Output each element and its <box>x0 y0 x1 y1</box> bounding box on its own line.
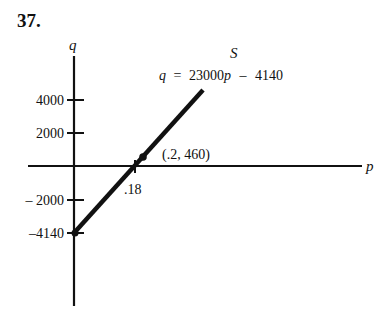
svg-text:–4140: –4140 <box>28 226 64 241</box>
svg-text:4000: 4000 <box>36 93 64 108</box>
intercept-point <box>72 230 79 237</box>
p-axis-label: p <box>365 158 374 174</box>
q-axis-label: q <box>69 37 77 53</box>
curve-label: S <box>230 45 238 61</box>
svg-text:– 2000: – 2000 <box>25 193 65 208</box>
point-02-460 <box>139 153 147 161</box>
y-tick-2000: 2000 <box>36 126 84 141</box>
equation-label: q = 23000p – 4140 <box>159 68 283 83</box>
svg-text:2000: 2000 <box>36 126 64 141</box>
svg-text:.18: .18 <box>124 182 142 197</box>
point-label: (.2, 460) <box>162 147 210 163</box>
y-tick-4000: 4000 <box>36 93 84 108</box>
supply-chart: q p 4000 2000 – 2000 –4140 .18 (.2, 460)… <box>0 0 391 319</box>
